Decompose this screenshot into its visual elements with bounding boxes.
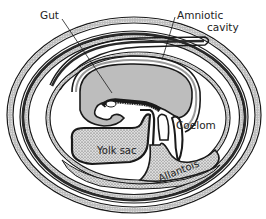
label-coelom: Coelom <box>176 119 216 131</box>
embryo-diagram: Gut Amniotic cavity Coelom Yolk sac Alla… <box>0 0 266 219</box>
serosa-membrane <box>20 31 248 203</box>
diagram-canvas: Gut Amniotic cavity Coelom Yolk sac Alla… <box>0 0 266 219</box>
label-cavity: cavity <box>207 21 239 33</box>
embryo-cavity <box>106 101 116 107</box>
label-yolk-sac: Yolk sac <box>96 145 136 156</box>
label-gut: Gut <box>40 9 59 21</box>
label-amniotic: Amniotic <box>177 9 223 21</box>
